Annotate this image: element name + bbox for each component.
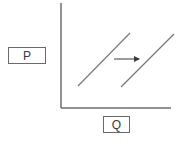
diagram-canvas [0,0,184,145]
y-axis-label-box: P [8,47,46,64]
x-axis-label: Q [112,118,121,132]
x-axis-label-box: Q [103,116,130,133]
y-axis-label: P [23,49,31,63]
shifted-supply-curve [121,34,174,87]
